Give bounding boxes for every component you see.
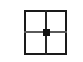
diagram-figure: A square outline subdivided into four eq…	[0, 0, 83, 62]
center-dot	[43, 29, 50, 36]
quadrant-square-diagram	[0, 0, 83, 62]
